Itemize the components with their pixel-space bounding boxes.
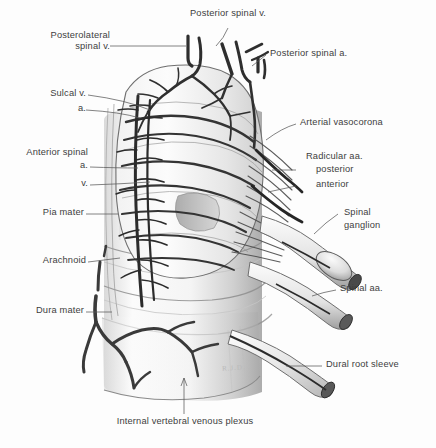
spinal-cord-illustration	[0, 0, 436, 448]
anatomical-figure: Posterior spinal v. Posterolateral spina…	[0, 0, 436, 448]
artist-signature: R.J.D.	[222, 363, 246, 373]
